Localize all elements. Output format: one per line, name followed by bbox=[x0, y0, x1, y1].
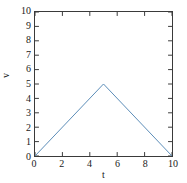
y-tick-label: 2 bbox=[0, 123, 31, 133]
y-tick-label: 3 bbox=[0, 108, 31, 118]
figure-canvas: 012345678910 0246810 t v bbox=[0, 0, 187, 183]
y-tick-label: 1 bbox=[0, 137, 31, 147]
plot-svg bbox=[35, 12, 172, 156]
plot-area bbox=[34, 11, 173, 157]
y-tick-label: 4 bbox=[0, 94, 31, 104]
x-axis-title: t bbox=[34, 169, 173, 180]
y-axis-tick-labels: 012345678910 bbox=[0, 11, 31, 157]
y-tick-label: 9 bbox=[0, 21, 31, 31]
y-tick-label: 8 bbox=[0, 35, 31, 45]
y-tick-label: 0 bbox=[0, 152, 31, 162]
y-tick-label: 5 bbox=[0, 79, 31, 89]
data-line bbox=[35, 84, 172, 156]
y-tick-label: 7 bbox=[0, 50, 31, 60]
data-series-group bbox=[35, 84, 172, 156]
y-axis-title: v bbox=[1, 73, 11, 78]
y-tick-label: 10 bbox=[0, 6, 31, 16]
